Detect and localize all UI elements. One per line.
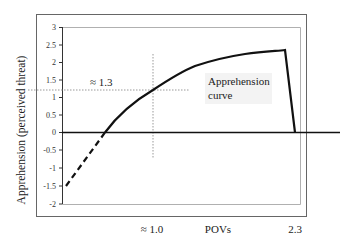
x-marker-left-label: ≈ 1.0 xyxy=(141,223,164,235)
y-tick-label: -0.5 xyxy=(43,146,56,155)
y-axis-title: Apprehension (perceived threat) xyxy=(15,55,28,204)
h-marker-label: ≈ 1.3 xyxy=(90,76,113,88)
curve-dashed-segment xyxy=(66,133,105,187)
y-tick-label: 2 xyxy=(52,58,56,67)
y-tick-label: 0.5 xyxy=(46,111,56,120)
y-tick-label: 1.5 xyxy=(46,76,56,85)
y-tick-label: 2.5 xyxy=(46,41,56,50)
y-tick-label: -1.5 xyxy=(43,182,56,191)
y-tick-label: -2 xyxy=(49,200,56,209)
y-ticks xyxy=(59,28,62,205)
x-marker-right-label: 2.3 xyxy=(288,223,302,235)
curve-label-line2: curve xyxy=(208,89,233,101)
y-tick-label: 3 xyxy=(52,23,56,32)
apprehension-chart: 3 2.5 2 1.5 1 0.5 0 -0.5 -1 -1.5 -2 Appr… xyxy=(0,0,354,242)
y-tick-label: 1 xyxy=(52,93,56,102)
curve-label-line1: Apprehension xyxy=(208,75,270,87)
y-tick-label: 0 xyxy=(52,128,56,137)
y-tick-labels: 3 2.5 2 1.5 1 0.5 0 -0.5 -1 -1.5 -2 xyxy=(43,23,56,209)
outer-frame xyxy=(37,15,307,217)
y-tick-label: -1 xyxy=(49,164,56,173)
x-axis-title: POVs xyxy=(205,223,231,235)
inner-frame xyxy=(62,28,301,205)
